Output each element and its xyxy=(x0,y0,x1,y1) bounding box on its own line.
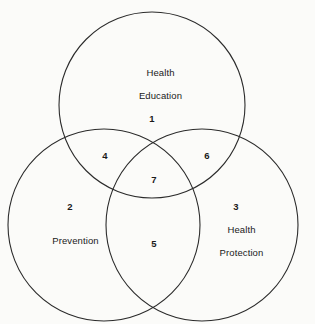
venn-diagram: Health Education Prevention Health Prote… xyxy=(0,0,315,324)
venn-circles-canvas xyxy=(0,0,315,324)
circle-prevention xyxy=(8,129,200,321)
circle-health-protection xyxy=(106,129,298,321)
circle-health-education xyxy=(59,12,245,198)
